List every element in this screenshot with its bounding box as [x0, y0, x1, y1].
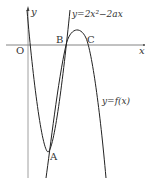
- parabola-label: y=2x²−2ax: [71, 9, 123, 19]
- point-c-label: C: [87, 34, 95, 45]
- function-graph: y x O y=2x²−2ax y=f(x) B C A: [0, 0, 153, 179]
- cubic-label: y=f(x): [101, 96, 131, 106]
- point-b-label: B: [56, 34, 63, 45]
- origin-label: O: [16, 45, 24, 56]
- point-a-label: A: [49, 151, 58, 162]
- parabola-curve: [27, 10, 70, 152]
- x-axis-label: x: [139, 45, 145, 56]
- y-axis-label: y: [30, 6, 37, 17]
